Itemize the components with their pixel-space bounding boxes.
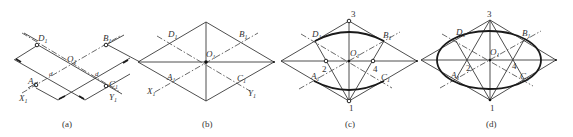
upper-arc <box>315 32 384 41</box>
label-d1: D1 <box>455 27 466 38</box>
label-b1: B1 <box>239 29 248 40</box>
panel-b: D1 B1 O1 A1 C1 X1 Y1 (b) <box>138 22 275 129</box>
side-line-1 <box>24 33 38 41</box>
label-4: 4 <box>373 64 378 74</box>
label-d1: D1 <box>37 33 48 44</box>
label-d-left: d <box>49 70 53 78</box>
label-x1: X1 <box>146 86 156 97</box>
label-2: 2 <box>466 63 471 73</box>
panel-a: D1 B1 O1 A1 C1 X1 Y1 d d (a) <box>14 33 140 129</box>
side-line-6 <box>58 58 130 100</box>
label-d1: D1 <box>167 29 178 40</box>
center-point <box>204 60 208 64</box>
label-o1: O1 <box>67 54 77 65</box>
isometric-ellipse-construction-figure: D1 B1 O1 A1 C1 X1 Y1 d d (a) D1 B1 O1 A1… <box>0 0 573 137</box>
label-c1: C1 <box>381 72 390 83</box>
point-2 <box>324 59 328 63</box>
label-4: 4 <box>512 61 517 71</box>
label-a1: A1 <box>27 76 37 87</box>
point-d1 <box>35 43 39 47</box>
label-d-right: d <box>95 70 99 78</box>
point-3 <box>347 19 351 23</box>
label-c1: C1 <box>109 79 118 90</box>
panel-c: 3 1 2 4 D1 B1 O1 A1 C1 (c) <box>281 9 418 129</box>
label-d1: D1 <box>311 29 322 40</box>
label-2: 2 <box>322 64 327 74</box>
side-line-5 <box>36 88 58 100</box>
point-b1 <box>104 43 108 47</box>
label-3: 3 <box>487 9 492 19</box>
center-point <box>348 60 351 63</box>
center-point <box>489 59 492 62</box>
caption-b: (b) <box>202 119 213 129</box>
label-c1: C1 <box>520 71 529 82</box>
caption-d: (d) <box>486 119 497 129</box>
label-b1: B1 <box>383 30 392 41</box>
label-a1: A1 <box>166 72 176 83</box>
label-a1: A1 <box>310 71 320 82</box>
label-3: 3 <box>351 9 356 19</box>
panel-d: 3 1 2 4 D1 B1 O1 A1 C1 (d) <box>421 9 557 129</box>
point-4 <box>371 59 375 63</box>
label-o1: O1 <box>490 47 500 58</box>
right-vertex-point <box>416 60 418 62</box>
label-a1: A1 <box>450 70 460 81</box>
caption-a: (a) <box>62 119 72 129</box>
label-1: 1 <box>490 103 495 113</box>
label-c1: C1 <box>237 73 246 84</box>
label-o1: O1 <box>206 49 216 60</box>
label-b1: B1 <box>522 28 531 39</box>
point-c1 <box>104 84 108 88</box>
construction-line-1-d1 <box>315 41 349 101</box>
label-y1: Y1 <box>248 88 256 99</box>
point-1 <box>489 99 492 102</box>
caption-c: (c) <box>345 119 355 129</box>
label-1: 1 <box>349 103 354 113</box>
arrow-mark <box>59 96 65 99</box>
right-vertex-point <box>273 61 275 63</box>
label-b1: B1 <box>103 33 112 44</box>
side-line-2 <box>14 45 38 60</box>
right-vertex-point <box>555 59 557 61</box>
label-y1: Y1 <box>109 92 117 103</box>
label-o1: O1 <box>350 48 360 59</box>
label-x1: X1 <box>18 93 28 104</box>
side-line-7 <box>108 45 140 62</box>
